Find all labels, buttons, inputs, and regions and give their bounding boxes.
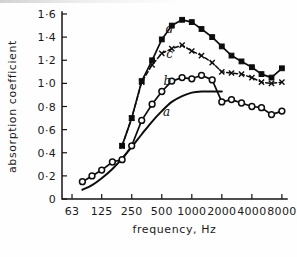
marker-b <box>159 89 165 95</box>
marker-d <box>219 44 224 49</box>
curve-d <box>122 20 282 146</box>
marker-b <box>179 75 185 81</box>
y-tick-label: 0·8 <box>38 101 56 114</box>
marker-d <box>150 58 155 63</box>
figure-container: 00·20·40·60·81·01·21·41·6631252505001000… <box>0 0 297 257</box>
y-tick-label: 0 <box>49 193 56 206</box>
x-tick-label: 2000 <box>207 205 236 218</box>
curve-label-c: c <box>166 47 173 61</box>
marker-d <box>210 35 215 40</box>
marker-d <box>280 66 285 71</box>
curve-label-b: b <box>164 74 172 88</box>
marker-b <box>189 76 195 82</box>
marker-d <box>199 27 204 32</box>
y-tick-label: 1·2 <box>38 54 56 67</box>
y-tick-label: 1·6 <box>38 8 56 21</box>
marker-b <box>259 105 265 111</box>
y-tick-label: 0·2 <box>38 170 56 183</box>
x-tick-label: 4000 <box>237 205 266 218</box>
marker-b <box>219 99 225 105</box>
marker-b <box>229 97 235 103</box>
marker-b <box>129 143 135 149</box>
absorption-coefficient-chart: 00·20·40·60·81·01·21·41·6631252505001000… <box>0 0 297 257</box>
marker-d <box>189 20 194 25</box>
marker-b <box>80 179 86 185</box>
y-tick-label: 1·0 <box>38 77 56 90</box>
marker-c <box>199 53 204 58</box>
curve-b <box>82 75 282 181</box>
x-axis-title: frequency, Hz <box>132 223 216 236</box>
marker-c <box>189 48 194 53</box>
x-tick-label: 250 <box>121 205 143 218</box>
marker-b <box>199 72 205 78</box>
marker-d <box>180 17 185 22</box>
marker-b <box>279 108 285 114</box>
y-tick-label: 1·4 <box>38 31 56 44</box>
marker-d <box>139 79 144 84</box>
y-tick-label: 0·4 <box>38 147 56 160</box>
marker-d <box>120 143 125 148</box>
y-axis-title: absorption coefficient <box>6 40 19 173</box>
marker-d <box>229 53 234 58</box>
marker-b <box>239 100 245 106</box>
x-tick-label: 125 <box>91 205 113 218</box>
marker-d <box>239 59 244 64</box>
x-tick-label: 63 <box>65 205 80 218</box>
marker-d <box>259 72 264 77</box>
marker-b <box>119 157 125 163</box>
marker-b <box>99 167 105 173</box>
marker-b <box>139 118 145 124</box>
y-tick-label: 0·6 <box>38 124 56 137</box>
marker-b <box>89 173 95 179</box>
x-tick-label: 500 <box>151 205 173 218</box>
marker-b <box>269 112 275 118</box>
marker-d <box>159 37 164 42</box>
curve-label-d: d <box>166 22 174 36</box>
marker-b <box>110 159 116 165</box>
curve-label-a: a <box>163 105 170 119</box>
marker-d <box>129 116 134 121</box>
marker-b <box>149 101 155 107</box>
x-tick-label: 8000 <box>267 205 296 218</box>
curve-c <box>122 45 282 146</box>
x-tick-label: 1000 <box>177 205 206 218</box>
marker-c <box>210 60 215 65</box>
marker-d <box>250 65 255 70</box>
marker-c <box>159 51 164 56</box>
marker-b <box>249 104 255 110</box>
marker-b <box>209 77 215 83</box>
marker-d <box>269 75 274 80</box>
